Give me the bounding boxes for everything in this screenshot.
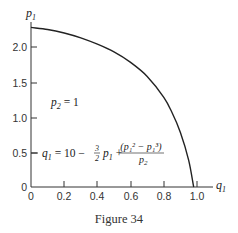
formula-denominator: p2 [138,154,148,167]
y-axis-label: p1 [25,6,36,22]
y-tick-label: 1.5 [12,77,27,89]
annotation-p2: p2 = 1 [50,96,79,111]
frac-den: 2 [95,154,99,163]
figure-caption: Figure 34 [95,212,144,226]
x-axis-label: q1 [216,178,226,194]
formula: q1 = 10 − 3 2 p1 + (p₁² − p₁³) p2 [31,141,164,167]
x-tick-label: 0.6 [124,190,139,202]
y-ticks: 2.0 1.5 1.0 0.5 0 [12,41,37,193]
y-tick-label: 0 [21,181,27,193]
x-tick-label: 0.8 [157,190,172,202]
y-tick-label: 0.5 [12,147,27,159]
x-tick-label: 0.4 [90,190,105,202]
formula-numerator: (p₁² − p₁³) [120,141,162,153]
x-ticks: 0 0.2 0.4 0.6 0.8 1.0 [28,181,204,202]
y-tick-label: 2.0 [12,41,27,53]
formula-lhs: q1 = 10 − [42,147,85,162]
x-tick-label: 0 [28,190,34,202]
x-tick-label: 1.0 [190,190,205,202]
frac-num: 3 [94,144,99,153]
formula-term: p1 + [102,147,122,162]
chart-figure: 2.0 1.5 1.0 0.5 0 0 0.2 0.4 0.6 0.8 1.0 … [0,0,238,233]
y-tick-label: 1.0 [12,112,27,124]
x-tick-label: 0.2 [57,190,72,202]
